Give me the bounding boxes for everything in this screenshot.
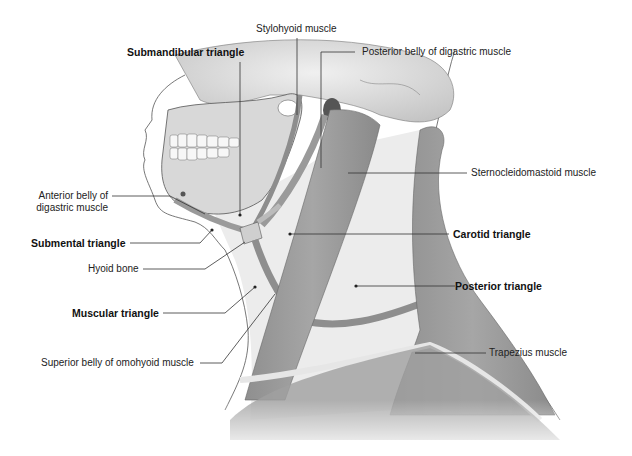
label-submental-triangle: Submental triangle (31, 237, 126, 249)
label-trapezius-muscle: Trapezius muscle (489, 347, 567, 359)
label-stylohyoid-muscle: Stylohyoid muscle (256, 23, 337, 35)
anatomy-illustration (0, 0, 632, 456)
label-submandibular-triangle: Submandibular triangle (127, 46, 244, 58)
label-posterior-triangle: Posterior triangle (455, 280, 542, 292)
label-hyoid-bone: Hyoid bone (88, 263, 139, 275)
neck-triangles-figure: Stylohyoid muscle Submandibular triangle… (0, 0, 632, 456)
label-carotid-triangle: Carotid triangle (453, 228, 531, 240)
mental-foramen (181, 192, 186, 197)
bottom-fade (200, 400, 600, 456)
label-anterior-belly-digastric-line1: Anterior belly of (34, 190, 108, 202)
label-muscular-triangle: Muscular triangle (72, 307, 159, 319)
label-anterior-belly-digastric-line2: digastric muscle (34, 202, 108, 214)
label-posterior-belly-digastric: Posterior belly of digastric muscle (362, 46, 511, 58)
label-sternocleidomastoid-muscle: Sternocleidomastoid muscle (471, 167, 596, 179)
label-superior-belly-omohyoid: Superior belly of omohyoid muscle (41, 357, 194, 369)
